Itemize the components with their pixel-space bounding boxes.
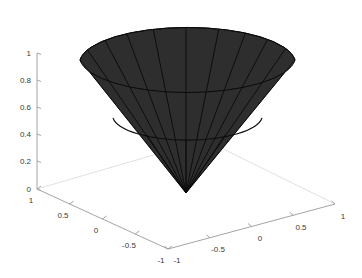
x-tick-0 (248, 224, 252, 227)
y-tick--0.5 (135, 231, 139, 234)
x-tick-label-1: 1 (341, 212, 346, 221)
floor-edge-back-right (205, 140, 335, 204)
x-tick-label--1: -1 (173, 256, 181, 265)
y-axis-ticks: 1 0.5 0 -0.5 -1 (29, 186, 172, 265)
y-tick-label-0: 0 (94, 226, 99, 235)
x-axis-ticks: -1 -0.5 0 0.5 1 (165, 201, 346, 265)
z-tick-0.2 (37, 161, 41, 163)
z-tick-label-0.2: 0.2 (20, 157, 32, 166)
z-tick-label-0.8: 0.8 (20, 76, 32, 85)
z-tick-label-0.4: 0.4 (20, 130, 32, 139)
z-tick-0.4 (37, 134, 41, 136)
z-tick-label-1: 1 (27, 49, 32, 58)
z-tick-label-0: 0 (27, 185, 32, 194)
x-tick-0.5 (290, 212, 294, 215)
y-tick-label--1: -1 (157, 256, 165, 265)
figure-canvas: 1 0.8 0.6 0.4 0.2 0 1 0.5 0 -0.5 -1 (0, 0, 362, 278)
y-tick-label--0.5: -0.5 (122, 241, 136, 250)
z-tick-0.6 (37, 107, 41, 109)
x-tick--0.5 (206, 235, 210, 238)
y-tick-label-0.5: 0.5 (57, 211, 69, 220)
y-tick-0 (103, 216, 107, 219)
x-tick-label-0.5: 0.5 (295, 223, 307, 232)
plot-svg: 1 0.8 0.6 0.4 0.2 0 1 0.5 0 -0.5 -1 (0, 0, 362, 278)
x-tick-label-0: 0 (258, 234, 263, 243)
z-tick-1 (37, 53, 41, 55)
y-tick-0.5 (70, 201, 74, 204)
x-tick-label--0.5: -0.5 (211, 245, 225, 254)
z-tick-0.8 (37, 80, 41, 82)
z-tick-label-0.6: 0.6 (20, 103, 32, 112)
z-axis-ticks: 1 0.8 0.6 0.4 0.2 0 (20, 49, 41, 194)
y-tick-label-1: 1 (29, 196, 34, 205)
